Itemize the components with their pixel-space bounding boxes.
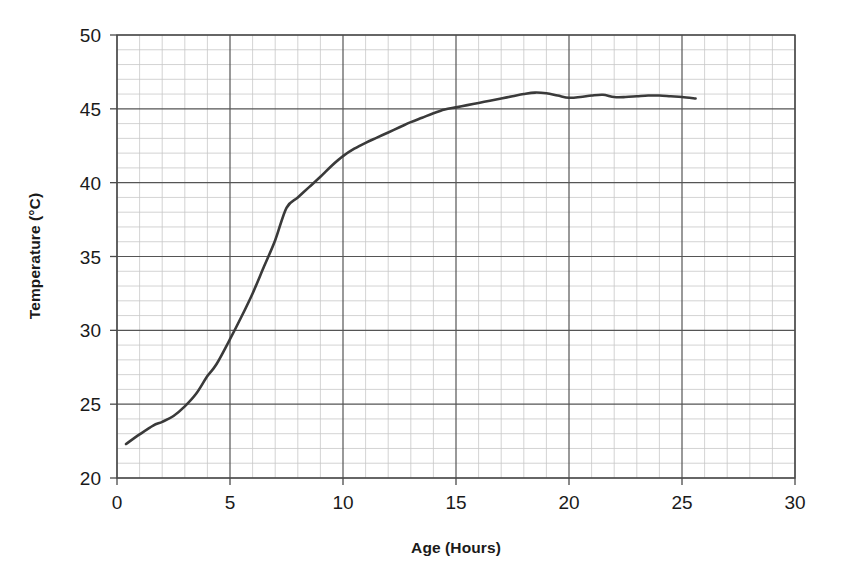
x-tick-label: 10 bbox=[332, 492, 353, 513]
x-tick-label: 5 bbox=[225, 492, 236, 513]
x-tick-label: 20 bbox=[558, 492, 579, 513]
y-tick-label: 50 bbox=[80, 25, 101, 46]
x-axis-title: Age (Hours) bbox=[411, 539, 501, 556]
y-tick-label: 20 bbox=[80, 468, 101, 489]
y-tick-label: 25 bbox=[80, 394, 101, 415]
y-tick-label: 30 bbox=[80, 320, 101, 341]
y-tick-label: 35 bbox=[80, 247, 101, 268]
x-tick-label: 0 bbox=[112, 492, 123, 513]
chart-container: 051015202530 20253035404550 Age (Hours) … bbox=[0, 0, 847, 582]
y-tick-label: 40 bbox=[80, 173, 101, 194]
line-chart: 051015202530 20253035404550 Age (Hours) … bbox=[0, 0, 847, 582]
x-tick-label: 30 bbox=[784, 492, 805, 513]
x-tick-label: 25 bbox=[671, 492, 692, 513]
chart-background bbox=[0, 0, 847, 582]
x-tick-label: 15 bbox=[445, 492, 466, 513]
y-axis-title: Temperature (°C) bbox=[26, 193, 43, 319]
y-tick-label: 45 bbox=[80, 99, 101, 120]
